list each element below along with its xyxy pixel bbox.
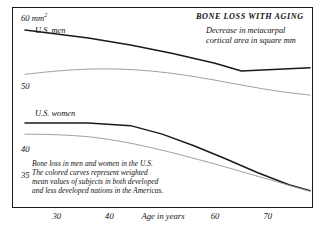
y-tick-40: 40 — [21, 144, 30, 154]
series-curve-1 — [25, 69, 310, 95]
y-tick-35: 35 — [21, 170, 30, 180]
x-tick-40: 40 — [105, 211, 114, 221]
x-tick-70: 70 — [264, 211, 273, 221]
chart-subtitle: Decrease in metacarpal cortical area in … — [206, 26, 296, 46]
chart-annotation: Bone loss in men and women in the U.S. T… — [32, 159, 163, 196]
series-label-us-men: U.S. men — [35, 26, 65, 36]
annotation-line-3: mean values of subjects in both develope… — [32, 177, 158, 186]
series-label-us-women: U.S. women — [35, 109, 75, 119]
chart-subtitle-line1: Decrease in metacarpal — [206, 26, 285, 35]
chart-title: BONE LOSS WITH AGING — [196, 12, 304, 22]
x-tick-60: 60 — [211, 211, 220, 221]
y-tick-50: 50 — [21, 81, 30, 91]
bone-loss-chart: 60 mm2 50 40 35 U.S. men U.S. women BONE… — [0, 0, 332, 234]
x-axis-title: Age in years — [142, 211, 185, 221]
x-tick-30: 30 — [52, 211, 61, 221]
annotation-line-1: Bone loss in men and women in the U.S. — [32, 159, 153, 168]
chart-subtitle-line2: cortical area in square mm — [206, 36, 296, 45]
annotation-line-2: The colored curves represent weighted — [32, 168, 148, 177]
annotation-line-4: and less developed nations in the Americ… — [32, 186, 163, 195]
y-axis-unit-label: 60 mm2 — [21, 12, 47, 23]
